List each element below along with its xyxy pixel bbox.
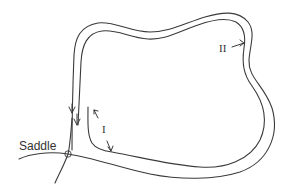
region-one-label: I xyxy=(102,123,106,135)
saddle-label: Saddle xyxy=(19,139,57,153)
flow-arrow-down-icon xyxy=(74,114,80,125)
inner-trajectory xyxy=(78,19,265,167)
region-two-arrow-icon xyxy=(232,40,244,47)
outer-trajectory xyxy=(19,13,274,178)
flow-arrow-down-icon xyxy=(69,104,75,113)
region-two-label: II xyxy=(219,42,227,54)
phase-portrait-diagram: I II Saddle xyxy=(0,0,293,192)
stable-manifold xyxy=(55,118,72,183)
